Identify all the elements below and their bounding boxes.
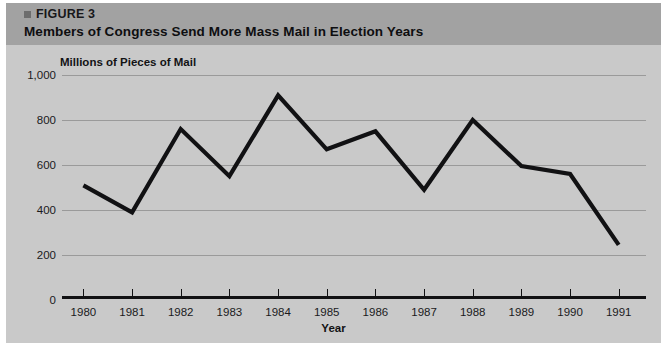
x-axis-title: Year (6, 322, 661, 334)
x-axis-tick (229, 289, 230, 296)
y-axis-tick-label: 200 (10, 249, 56, 261)
y-axis-tick-label: 400 (10, 204, 56, 216)
x-axis-tick (570, 289, 571, 296)
x-axis-tick-label: 1982 (168, 306, 194, 318)
x-axis-tick-label: 1980 (71, 306, 97, 318)
x-axis-tick-labels: 1980198119821983198419851986198719881989… (62, 299, 646, 319)
x-axis-tick (619, 289, 620, 296)
figure-title: Members of Congress Send More Mass Mail … (24, 24, 423, 40)
x-axis-tick-label: 1991 (606, 306, 632, 318)
x-axis-tick-label: 1989 (509, 306, 535, 318)
x-axis-tick-label: 1986 (363, 306, 389, 318)
y-axis-tick-label: 800 (10, 114, 56, 126)
x-axis-tick-label: 1988 (460, 306, 486, 318)
x-axis-ticks (62, 296, 646, 297)
x-axis-tick (278, 289, 279, 296)
y-axis-tick-label: 600 (10, 159, 56, 171)
x-axis-tick (473, 289, 474, 296)
mass-mail-series-line (83, 95, 618, 245)
x-axis-tick-label: 1984 (265, 306, 291, 318)
square-bullet-icon (24, 11, 31, 18)
series-line-chart (62, 75, 646, 300)
figure-number-label: FIGURE 3 (36, 8, 95, 21)
x-axis-tick (521, 289, 522, 296)
x-axis-tick (327, 289, 328, 296)
y-axis-tick-label: 1,000 (10, 69, 56, 81)
x-axis-tick-label: 1985 (314, 306, 340, 318)
y-axis-tick-label: 0 (10, 294, 56, 306)
figure-label-row: FIGURE 3 (24, 8, 95, 21)
figure-panel: FIGURE 3 Members of Congress Send More M… (6, 3, 661, 343)
chart-area: Millions of Pieces of Mail 1,00080060040… (6, 45, 661, 343)
x-axis-tick (375, 289, 376, 296)
x-axis-tick (132, 289, 133, 296)
x-axis-tick-label: 1983 (217, 306, 243, 318)
figure-header-band: FIGURE 3 Members of Congress Send More M… (6, 3, 661, 45)
x-axis-tick-label: 1987 (411, 306, 437, 318)
x-axis-tick (83, 289, 84, 296)
x-axis-tick-label: 1990 (557, 306, 583, 318)
x-axis-tick (181, 289, 182, 296)
y-axis-title: Millions of Pieces of Mail (60, 56, 196, 68)
x-axis-tick (424, 289, 425, 296)
x-axis-tick-label: 1981 (119, 306, 145, 318)
y-axis-tick-labels: 1,0008006004002000 (6, 75, 56, 300)
